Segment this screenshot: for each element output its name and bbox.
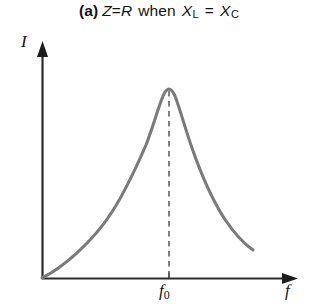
- resonance-plot: [0, 0, 318, 305]
- x-axis-label: f: [285, 281, 290, 301]
- resonance-figure: (a)Z=RwhenXL=XC I f f0: [0, 0, 318, 305]
- resonance-curve: [42, 89, 253, 278]
- y-axis-arrowhead: [37, 41, 48, 57]
- resonance-frequency-subscript: 0: [164, 288, 170, 302]
- y-axis-label: I: [21, 32, 27, 52]
- resonance-frequency-label: f0: [159, 281, 170, 303]
